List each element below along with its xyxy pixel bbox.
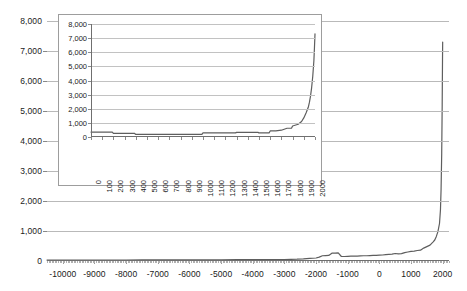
inset-x-tick-label: 700 xyxy=(172,180,181,193)
inset-x-tick-mark xyxy=(270,137,271,140)
inset-x-tick-label: 1500 xyxy=(262,180,271,197)
inset-x-tick-mark xyxy=(192,137,193,140)
outer-y-tick-label: 5,000 xyxy=(20,106,42,116)
inset-x-tick-label: 200 xyxy=(116,180,125,193)
outer-y-tick-label: 8,000 xyxy=(20,16,42,26)
inset-x-tick-label: 600 xyxy=(161,180,170,193)
inset-x-tick-mark xyxy=(169,137,170,140)
inset-x-tick-mark xyxy=(304,137,305,140)
outer-x-tick-label: -7000 xyxy=(147,269,169,279)
outer-y-tick-label: 4,000 xyxy=(20,136,42,146)
inset-x-tick-label: 1900 xyxy=(307,180,316,197)
outer-x-tick-label: -3000 xyxy=(273,269,295,279)
inset-x-tick-mark xyxy=(248,137,249,140)
outer-y-tick-mark xyxy=(43,201,47,202)
inset-y-tick-label: 4,000 xyxy=(68,76,87,85)
inset-x-tick-mark xyxy=(136,137,137,140)
inset-y-tick-label: 8,000 xyxy=(68,20,87,29)
inset-y-axis-line xyxy=(91,24,92,137)
outer-x-tick-label: -1000 xyxy=(337,269,359,279)
inset-x-tick-label: 0 xyxy=(94,180,103,184)
outer-x-tick-label: -8000 xyxy=(115,269,137,279)
inset-x-tick-mark xyxy=(181,137,182,140)
outer-y-tick-mark xyxy=(43,111,47,112)
outer-x-tick-label: 1000 xyxy=(401,269,420,279)
inset-x-tick-label: 100 xyxy=(105,180,114,193)
inset-x-tick-label: 1000 xyxy=(206,180,215,197)
inset-y-tick-label: 0 xyxy=(83,133,87,142)
inset-x-tick-mark xyxy=(158,137,159,140)
inset-x-tick-label: 1600 xyxy=(273,180,282,197)
inset-x-tick-label: 1700 xyxy=(284,180,293,197)
inset-gridline xyxy=(91,24,315,25)
outer-x-tick-label: 2000 xyxy=(433,269,452,279)
inset-x-tick-label: 1200 xyxy=(228,180,237,197)
inset-x-tick-label: 1300 xyxy=(240,180,249,197)
inset-gridline xyxy=(91,109,315,110)
inset-y-tick-label: 6,000 xyxy=(68,48,87,57)
inset-y-tick-label: 5,000 xyxy=(68,62,87,71)
outer-x-tick-label: 0 xyxy=(377,269,382,279)
outer-y-tick-mark xyxy=(43,231,47,232)
outer-x-tick-label: -5000 xyxy=(210,269,232,279)
chart-page: 01,0002,0003,0004,0005,0006,0007,0008,00… xyxy=(0,0,467,291)
outer-x-tick-label: -2000 xyxy=(305,269,327,279)
inset-x-tick-mark xyxy=(113,137,114,140)
outer-y-tick-label: 0 xyxy=(37,256,42,266)
outer-y-tick-label: 2,000 xyxy=(20,196,42,206)
outer-y-tick-mark xyxy=(43,141,47,142)
inset-gridline xyxy=(91,38,315,39)
inset-x-tick-mark xyxy=(102,137,103,140)
inset-x-tick-label: 900 xyxy=(195,180,204,193)
outer-x-tick-label: -9000 xyxy=(83,269,105,279)
inset-x-tick-label: 300 xyxy=(128,180,137,193)
outer-y-tick-mark xyxy=(43,171,47,172)
inset-y-tick-label: 3,000 xyxy=(68,90,87,99)
inset-gridline xyxy=(91,95,315,96)
inset-x-tick-mark xyxy=(147,137,148,140)
inset-x-tick-label: 500 xyxy=(150,180,159,193)
inset-x-tick-label: 1100 xyxy=(217,180,226,196)
inset-x-tick-mark xyxy=(91,137,92,140)
inset-x-tick-mark xyxy=(237,137,238,140)
inset-x-tick-mark xyxy=(293,137,294,140)
inset-x-tick-mark xyxy=(125,137,126,140)
inset-y-tick-label: 1,000 xyxy=(68,118,87,127)
outer-x-minor-tick xyxy=(449,261,450,263)
inset-x-tick-mark xyxy=(214,137,215,140)
inset-x-tick-mark xyxy=(203,137,204,140)
inset-y-tick-label: 2,000 xyxy=(68,104,87,113)
outer-y-tick-label: 6,000 xyxy=(20,76,42,86)
inset-plot-area: 01,0002,0003,0004,0005,0006,0007,0008,00… xyxy=(91,24,315,137)
outer-y-tick-label: 3,000 xyxy=(20,166,42,176)
outer-y-tick-mark xyxy=(43,51,47,52)
inset-x-tick-label: 2000 xyxy=(318,180,327,197)
inset-x-tick-mark xyxy=(259,137,260,140)
outer-y-tick-mark xyxy=(43,81,47,82)
inset-gridline xyxy=(91,66,315,67)
inset-x-tick-mark xyxy=(225,137,226,140)
outer-x-tick-label: -6000 xyxy=(178,269,200,279)
inset-x-tick-label: 1800 xyxy=(296,180,305,197)
inset-x-tick-label: 400 xyxy=(139,180,148,193)
outer-x-tick-label: -10000 xyxy=(49,269,76,279)
inset-x-tick-mark xyxy=(281,137,282,140)
inset-x-tick-mark xyxy=(315,137,316,140)
inset-y-tick-label: 7,000 xyxy=(68,34,87,43)
inset-x-tick-label: 1400 xyxy=(251,180,260,197)
outer-gridline xyxy=(47,201,449,202)
inset-gridline xyxy=(91,52,315,53)
inset-gridline xyxy=(91,81,315,82)
outer-y-tick-label: 7,000 xyxy=(20,46,42,56)
outer-gridline xyxy=(47,231,449,232)
inset-zoom-chart: 01,0002,0003,0004,0005,0006,0007,0008,00… xyxy=(58,14,322,186)
outer-y-tick-label: 1,000 xyxy=(20,226,42,236)
inset-gridline xyxy=(91,123,315,124)
inset-x-tick-label: 800 xyxy=(184,180,193,193)
outer-x-tick-label: -4000 xyxy=(242,269,264,279)
